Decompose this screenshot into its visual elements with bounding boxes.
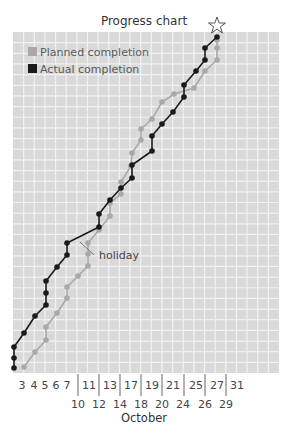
x-tick-label: 19 — [145, 379, 159, 392]
x-tick-label: 26 — [198, 398, 212, 411]
x-tick-label: 5 — [42, 379, 49, 392]
data-point — [129, 175, 135, 181]
data-point — [11, 344, 17, 350]
x-tick-label: 10 — [71, 398, 85, 411]
x-tick-label: 17 — [124, 379, 138, 392]
data-point — [85, 240, 91, 246]
data-point — [64, 295, 70, 301]
data-point — [21, 364, 27, 370]
data-point — [75, 273, 81, 279]
x-tick-label: 14 — [113, 398, 127, 411]
data-point — [149, 148, 155, 154]
x-tick-label: 3 — [19, 379, 26, 392]
data-point — [202, 45, 208, 51]
x-tick-label: 31 — [230, 379, 244, 392]
data-point — [191, 85, 197, 91]
data-point — [96, 211, 102, 217]
data-point — [54, 264, 60, 270]
data-point — [21, 330, 27, 336]
x-tick-label: 11 — [82, 379, 96, 392]
data-point — [202, 57, 208, 63]
data-point — [118, 185, 124, 191]
data-point — [43, 337, 49, 343]
data-point — [149, 116, 155, 122]
data-point — [54, 310, 60, 316]
holiday-label: holiday — [99, 249, 140, 262]
x-tick-label: 29 — [219, 398, 233, 411]
data-point — [170, 109, 176, 115]
x-axis-label: October — [121, 411, 167, 425]
star-icon — [209, 17, 226, 33]
x-tick-label: 25 — [189, 379, 203, 392]
data-point — [32, 349, 38, 355]
legend-swatch-planned — [28, 47, 37, 56]
data-point — [11, 355, 17, 361]
plot-grid — [13, 32, 279, 373]
data-point — [181, 94, 187, 100]
data-point — [181, 82, 187, 88]
x-tick-label: 6 — [53, 379, 60, 392]
data-point — [129, 162, 135, 168]
data-point — [85, 251, 91, 257]
legend-swatch-actual — [28, 64, 37, 73]
data-point — [107, 197, 113, 203]
x-tick-label: 24 — [176, 398, 190, 411]
data-point — [43, 302, 49, 308]
x-tick-label: 20 — [155, 398, 169, 411]
data-point — [202, 68, 208, 74]
x-axis: 3456711131719212527311012141820242629 — [19, 374, 245, 411]
data-point — [64, 240, 70, 246]
data-point — [118, 179, 124, 185]
legend-label-actual: Actual completion — [40, 63, 139, 76]
data-point — [11, 365, 17, 371]
x-tick-label: 18 — [134, 398, 148, 411]
data-point — [118, 191, 124, 197]
data-point — [159, 99, 165, 105]
data-point — [138, 137, 144, 143]
chart-title: Progress chart — [101, 14, 188, 28]
x-tick-label: 13 — [103, 379, 117, 392]
data-point — [64, 252, 70, 258]
data-point — [138, 126, 144, 132]
data-point — [85, 263, 91, 269]
x-tick-label: 12 — [92, 398, 106, 411]
x-tick-label: 27 — [210, 379, 224, 392]
x-tick-label: 7 — [64, 379, 71, 392]
data-point — [129, 150, 135, 156]
x-tick-label: 4 — [31, 379, 38, 392]
data-point — [159, 121, 165, 127]
data-point — [64, 284, 70, 290]
data-point — [214, 34, 220, 40]
legend-label-planned: Planned completion — [40, 46, 149, 59]
data-point — [43, 290, 49, 296]
data-point — [43, 324, 49, 330]
data-point — [107, 213, 113, 219]
data-point — [214, 57, 220, 63]
data-point — [43, 278, 49, 284]
data-point — [149, 133, 155, 139]
data-point — [171, 91, 177, 97]
progress-chart: Progress chart Planned completion Actual… — [0, 0, 287, 436]
data-point — [96, 224, 102, 230]
data-point — [214, 45, 220, 51]
data-point — [32, 313, 38, 319]
data-point — [193, 68, 199, 74]
x-tick-label: 21 — [166, 379, 180, 392]
